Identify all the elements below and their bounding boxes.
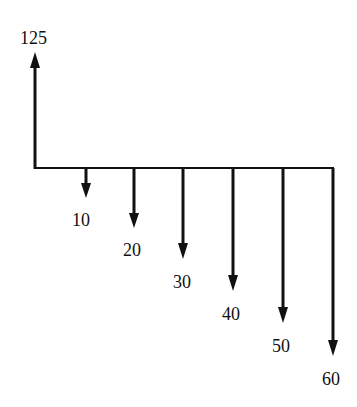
outflow-label-1: 10 bbox=[72, 210, 90, 230]
arrow-down-icon bbox=[129, 213, 139, 228]
outflow-label-2: 20 bbox=[123, 240, 141, 260]
arrow-down-icon bbox=[278, 307, 288, 323]
cash-flow-diagram: 125 10 20 30 40 50 60 bbox=[0, 0, 357, 407]
arrow-up-icon bbox=[30, 52, 40, 68]
outflow-label-6: 60 bbox=[322, 369, 340, 389]
arrow-down-icon bbox=[81, 183, 91, 198]
outflow-label-4: 40 bbox=[222, 304, 240, 324]
outflow-arrow-20 bbox=[129, 168, 139, 228]
inflow-arrow-125 bbox=[30, 52, 40, 169]
arrow-down-icon bbox=[328, 340, 338, 356]
outflow-arrow-40 bbox=[228, 168, 238, 291]
outflow-label-5: 50 bbox=[272, 336, 290, 356]
outflow-label-3: 30 bbox=[173, 272, 191, 292]
outflow-arrow-60 bbox=[328, 168, 338, 356]
inflow-label: 125 bbox=[20, 28, 47, 48]
outflow-arrow-50 bbox=[278, 168, 288, 323]
arrow-down-icon bbox=[228, 275, 238, 291]
outflow-arrow-10 bbox=[81, 168, 91, 198]
outflow-arrow-30 bbox=[178, 168, 188, 259]
arrow-down-icon bbox=[178, 243, 188, 259]
